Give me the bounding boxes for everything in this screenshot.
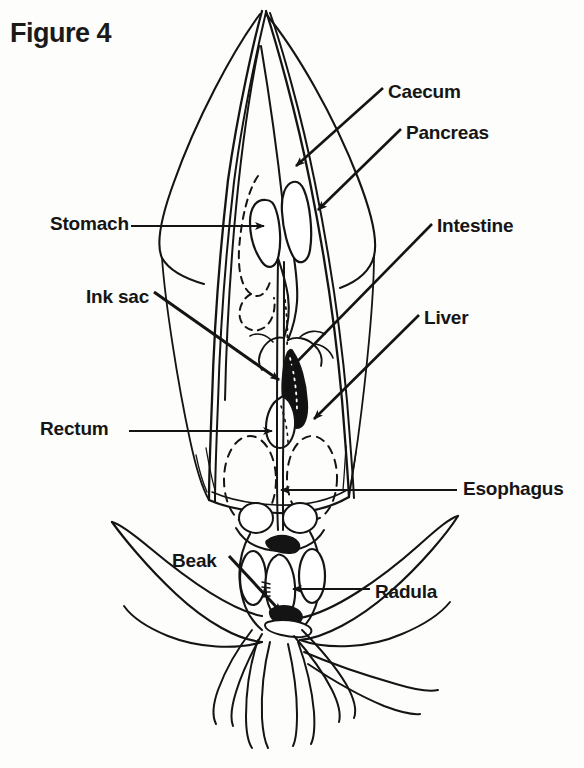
label-caecum: Caecum (388, 81, 461, 103)
funnel-lobe-left (239, 503, 273, 533)
caecum-leader (296, 88, 383, 166)
intestine-lumen-upper (285, 300, 287, 346)
esophagus-tube (277, 262, 278, 530)
fin-right-crease2 (343, 446, 346, 490)
mantle-collar-rim (212, 490, 347, 505)
head-and-arms-group (112, 516, 458, 748)
gladius-pen-right (261, 46, 283, 205)
label-esophagus: Esophagus (463, 478, 564, 500)
stomach-organ (250, 200, 280, 267)
intestine-tract-right (288, 258, 297, 340)
arm-left-2b (262, 642, 270, 748)
squid-anatomy-diagram (0, 0, 584, 768)
rectum-organ (266, 397, 295, 448)
label-ink-sac: Ink sac (86, 286, 149, 308)
beak-lower (265, 620, 311, 637)
tentacle-right-tip (300, 602, 450, 646)
fin-left-edge (162, 258, 209, 500)
fin-left (159, 14, 260, 284)
figure-page: Figure 4 (0, 0, 584, 768)
pancreas-leader (318, 129, 401, 210)
label-beak: Beak (172, 550, 217, 572)
caecum-organ-lower (240, 294, 275, 330)
tentacle-right-lower (304, 652, 438, 691)
liver-leader (314, 315, 419, 419)
label-rectum: Rectum (40, 418, 108, 440)
pancreas-organ (282, 182, 311, 262)
liver-organ (259, 337, 284, 370)
arm-right-2b (288, 644, 297, 746)
label-intestine: Intestine (437, 215, 513, 237)
eye-right (299, 549, 325, 603)
funnel-lobe-right (283, 503, 317, 533)
label-pancreas: Pancreas (406, 122, 489, 144)
label-stomach: Stomach (50, 213, 129, 235)
label-radula: Radula (375, 581, 437, 603)
tentacle-right-lower-b (308, 664, 420, 714)
tentacle-left-tip (124, 606, 262, 647)
fin-right-edge (349, 256, 374, 497)
label-liver: Liver (424, 307, 468, 329)
arm-left-2 (246, 640, 258, 748)
